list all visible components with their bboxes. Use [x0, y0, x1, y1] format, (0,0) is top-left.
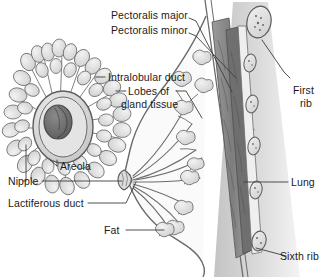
label-lobes-of-gland-tissue-line2: gland tissue	[121, 98, 178, 111]
label-pectoralis-minor: Pectoralis minor	[111, 24, 188, 36]
label-first-rib-line2: rib	[300, 97, 312, 109]
label-pectoralis-major: Pectoralis major	[111, 9, 188, 21]
label-lactiferous-duct: Lactiferous duct	[8, 197, 84, 209]
nipple-frontal	[44, 105, 72, 139]
label-intralobular-duct: Intralobular duct	[108, 71, 185, 83]
label-sixth-rib: Sixth rib	[280, 250, 319, 262]
label-first-rib-line1: First	[293, 84, 314, 96]
label-lobes-of-gland-tissue-line1: Lobes of	[128, 85, 169, 98]
label-nipple: Nipple	[8, 175, 38, 187]
breast-anatomy-figure: Pectoralis major Pectoralis minor Intral…	[0, 0, 330, 277]
label-areola: Areola	[60, 160, 91, 172]
label-lung: Lung	[291, 176, 315, 188]
anatomy-illustration	[0, 0, 330, 277]
label-fat: Fat	[104, 224, 119, 236]
